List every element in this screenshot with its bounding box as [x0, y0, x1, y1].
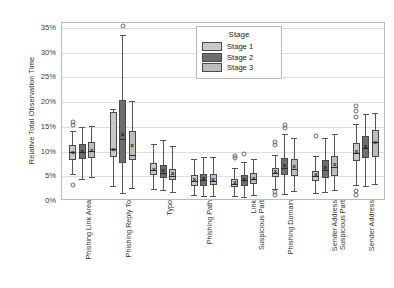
whisker-cap-upper: [160, 140, 166, 141]
whisker-cap-lower: [70, 174, 76, 175]
outlier-point: [354, 188, 359, 193]
box-plot-item: ×: [127, 23, 136, 199]
whisker-cap-lower: [79, 179, 85, 180]
box-plot-item: ×: [109, 23, 118, 199]
outlier-point: [354, 108, 359, 113]
legend-entry[interactable]: Stage 2: [202, 53, 276, 62]
whisker-lower: [172, 180, 173, 191]
x-axis-tick-labels: Phishing Link AreaPhishing Reply ToTypoP…: [61, 200, 385, 288]
x-tick-label: LinkSuspicious Part: [250, 200, 262, 288]
outlier-point: [354, 193, 359, 198]
mean-marker: ×: [202, 176, 206, 182]
whisker-lower: [153, 175, 154, 189]
whisker-cap-lower: [201, 196, 207, 197]
x-tick-label-line: Sender Address: [368, 200, 376, 288]
y-tick-label: 0%: [22, 196, 56, 205]
whisker-cap-lower: [191, 195, 197, 196]
mean-marker: ×: [121, 132, 125, 138]
x-tick-label: Phishing Path: [206, 200, 218, 288]
box-plot-item: ×: [321, 23, 330, 199]
outlier-point: [273, 190, 278, 195]
outlier-point: [70, 120, 75, 125]
x-tick-label-line: Phishing Domain: [287, 200, 295, 288]
whisker-upper: [275, 155, 276, 168]
whisker-upper: [294, 138, 295, 160]
whisker-cap-upper: [291, 138, 297, 139]
legend-entry[interactable]: Stage 1: [202, 42, 276, 51]
whisker-cap-upper: [151, 144, 157, 145]
whisker-cap-upper: [241, 162, 247, 163]
mean-marker: ×: [111, 147, 115, 153]
whisker-cap-lower: [372, 184, 378, 185]
whisker-cap-upper: [251, 159, 257, 160]
box-plot-item: ×: [352, 23, 361, 199]
mean-marker: ×: [314, 172, 318, 178]
whisker-upper: [356, 124, 357, 143]
box-plot-item: ×: [330, 23, 339, 199]
mean-marker: ×: [373, 139, 377, 145]
whisker-lower: [284, 175, 285, 194]
whisker-cap-lower: [353, 185, 359, 186]
legend-entry[interactable]: Stage 3: [202, 63, 276, 72]
whisker-cap-upper: [313, 156, 319, 157]
median-line: [119, 139, 126, 140]
outlier-point: [273, 139, 278, 144]
x-tick-label: Phishing Link Area: [85, 200, 97, 288]
whisker-cap-lower: [110, 186, 116, 187]
whisker-cap-lower: [313, 193, 319, 194]
whisker-upper: [194, 159, 195, 175]
whisker-lower: [234, 187, 235, 196]
box-plot-item: ×: [159, 23, 168, 199]
whisker-upper: [153, 144, 154, 163]
outlier-point: [120, 23, 125, 28]
outlier-point: [282, 122, 287, 127]
legend-swatch: [202, 42, 222, 51]
mean-marker: ×: [273, 169, 277, 175]
x-tick-label-line: Suspicious Part: [258, 200, 266, 288]
mean-marker: ×: [130, 142, 134, 148]
whisker-cap-lower: [363, 186, 369, 187]
whisker-cap-lower: [241, 197, 247, 198]
y-tick-label: 15%: [22, 121, 56, 130]
mean-marker: ×: [364, 143, 368, 149]
whisker-lower: [325, 178, 326, 192]
whisker-cap-lower: [120, 193, 126, 194]
whisker-upper: [203, 157, 204, 174]
legend-label: Stage 2: [227, 53, 253, 62]
whisker-lower: [294, 176, 295, 191]
whisker-cap-lower: [89, 177, 95, 178]
whisker-lower: [122, 163, 123, 193]
whisker-lower: [72, 160, 73, 174]
outlier-point: [313, 133, 318, 138]
whisker-upper: [122, 35, 123, 100]
x-tick-label: Sender Address: [368, 200, 380, 288]
boxplot-chart: Relative Total Observation Time 0%5%10%1…: [0, 0, 394, 288]
whisker-lower: [82, 159, 83, 179]
y-tick-label: 10%: [22, 146, 56, 155]
whisker-lower: [163, 178, 164, 190]
whisker-cap-lower: [210, 196, 216, 197]
whisker-lower: [203, 186, 204, 196]
whisker-lower: [213, 185, 214, 195]
whisker-cap-upper: [201, 157, 207, 158]
whisker-lower: [132, 160, 133, 188]
whisker-cap-upper: [210, 157, 216, 158]
whisker-lower: [275, 177, 276, 188]
box-plot-item: ×: [68, 23, 77, 199]
whisker-cap-upper: [129, 101, 135, 102]
outlier-point: [354, 103, 359, 108]
box-plot-item: ×: [289, 23, 298, 199]
whisker-cap-upper: [232, 168, 238, 169]
whisker-cap-lower: [232, 196, 238, 197]
whisker-lower: [334, 176, 335, 190]
whisker-cap-upper: [372, 113, 378, 114]
whisker-cap-lower: [170, 192, 176, 193]
x-tick-label-line: Phishing Link Area: [85, 200, 93, 288]
whisker-lower: [315, 181, 316, 193]
legend-swatch: [202, 63, 222, 72]
whisker-cap-upper: [191, 159, 197, 160]
whisker-cap-lower: [129, 188, 135, 189]
y-axis-tick-labels: 0%5%10%15%20%25%30%35%: [22, 0, 56, 288]
whisker-upper: [91, 126, 92, 142]
mean-marker: ×: [152, 167, 156, 173]
